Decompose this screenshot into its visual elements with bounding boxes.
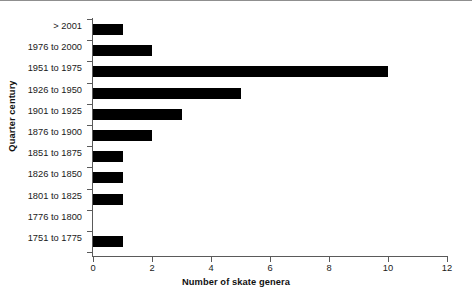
y-axis-tick bbox=[87, 146, 92, 147]
x-axis-tick bbox=[270, 257, 271, 262]
bar bbox=[93, 45, 152, 56]
x-tick-label: 4 bbox=[208, 263, 213, 273]
y-tick-label: 1851 to 1875 bbox=[28, 148, 82, 158]
bar bbox=[93, 130, 152, 141]
bar-row bbox=[93, 211, 447, 232]
y-axis-tick bbox=[87, 125, 92, 126]
bar-row bbox=[93, 147, 447, 168]
bar-row bbox=[93, 190, 447, 211]
x-tick-label: 12 bbox=[442, 263, 452, 273]
y-tick-label: 1951 to 1975 bbox=[28, 63, 82, 73]
bar bbox=[93, 151, 123, 162]
x-axis-tick bbox=[447, 257, 448, 262]
y-axis-tick bbox=[87, 167, 92, 168]
x-axis-tick bbox=[93, 257, 94, 262]
bar-row bbox=[93, 168, 447, 189]
y-axis-tick bbox=[87, 252, 92, 253]
x-axis-tick bbox=[388, 257, 389, 262]
y-axis-tick bbox=[87, 189, 92, 190]
y-axis-tick bbox=[87, 19, 92, 20]
bar bbox=[93, 194, 123, 205]
y-tick-label: 1826 to 1850 bbox=[28, 169, 82, 179]
y-tick-label: 1801 to 1825 bbox=[28, 191, 82, 201]
bar-row bbox=[93, 62, 447, 83]
y-tick-label: > 2001 bbox=[53, 21, 82, 31]
x-tick-label: 0 bbox=[90, 263, 95, 273]
bar-row bbox=[93, 232, 447, 253]
y-axis-tick bbox=[87, 231, 92, 232]
bar bbox=[93, 88, 241, 99]
y-tick-label: 1876 to 1900 bbox=[28, 127, 82, 137]
y-axis-tick bbox=[87, 61, 92, 62]
y-tick-label: 1776 to 1800 bbox=[28, 212, 82, 222]
bar bbox=[93, 109, 182, 120]
bar bbox=[93, 66, 388, 77]
y-axis-tick bbox=[87, 104, 92, 105]
bar-row bbox=[93, 105, 447, 126]
y-tick-label: 1751 to 1775 bbox=[28, 233, 82, 243]
bar-row bbox=[93, 126, 447, 147]
x-tick-label: 6 bbox=[267, 263, 272, 273]
x-axis-tick bbox=[329, 257, 330, 262]
y-tick-label: 1926 to 1950 bbox=[28, 85, 82, 95]
x-tick-label: 2 bbox=[149, 263, 154, 273]
y-axis-title: Quarter century bbox=[7, 56, 17, 176]
x-axis-tick bbox=[152, 257, 153, 262]
bar bbox=[93, 236, 123, 247]
bar-row bbox=[93, 20, 447, 41]
y-axis-tick bbox=[87, 83, 92, 84]
bar-chart-figure: > 20011976 to 20001951 to 19751926 to 19… bbox=[0, 0, 472, 293]
x-tick-label: 10 bbox=[383, 263, 393, 273]
x-axis-title: Number of skate genera bbox=[0, 277, 472, 287]
plot-area bbox=[93, 18, 447, 256]
y-tick-label: 1976 to 2000 bbox=[28, 42, 82, 52]
bar bbox=[93, 172, 123, 183]
x-tick-label: 8 bbox=[326, 263, 331, 273]
y-axis-tick bbox=[87, 40, 92, 41]
bar-row bbox=[93, 41, 447, 62]
bar-row bbox=[93, 84, 447, 105]
y-axis-tick bbox=[87, 210, 92, 211]
y-tick-label: 1901 to 1925 bbox=[28, 106, 82, 116]
x-axis-tick bbox=[211, 257, 212, 262]
bar bbox=[93, 24, 123, 35]
